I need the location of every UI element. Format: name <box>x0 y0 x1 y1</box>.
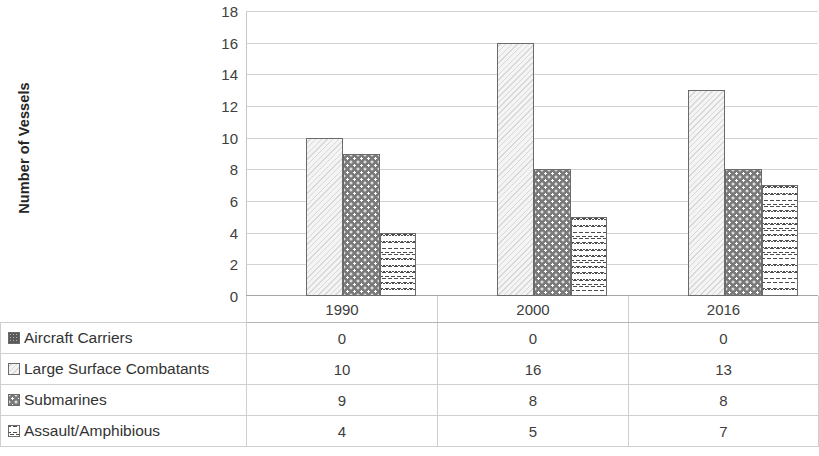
y-tick-2: 2 <box>192 256 238 273</box>
table-row: Assault/Amphibious 4 5 7 <box>1 416 819 447</box>
legend-swatch-assault-amphibious <box>8 425 20 437</box>
legend-swatch-aircraft-carriers <box>8 332 20 344</box>
cell-aircraft-carriers-1990: 0 <box>247 323 438 354</box>
y-tick-4: 4 <box>192 224 238 241</box>
table-row: Aircraft Carriers 0 0 0 <box>1 323 819 354</box>
y-tick-8: 8 <box>192 161 238 178</box>
legend-swatch-submarines <box>8 394 20 406</box>
cell-submarines-1990: 9 <box>247 385 438 416</box>
bar-1990-assault-amphibious <box>380 233 416 296</box>
legend-row-submarines: Submarines <box>1 385 247 416</box>
table-header-2016: 2016 <box>629 296 819 323</box>
bar-1990-large-surface-combatants <box>306 138 343 296</box>
table-row: Large Surface Combatants 10 16 13 <box>1 354 819 385</box>
legend-label-submarines: Submarines <box>24 391 107 408</box>
y-tick-10: 10 <box>192 129 238 146</box>
cell-large-surface-combatants-2016: 13 <box>629 354 819 385</box>
y-axis-tick-labels: 18 16 14 12 10 8 6 4 2 0 <box>186 11 238 296</box>
legend-label-assault-amphibious: Assault/Amphibious <box>24 422 160 439</box>
cell-submarines-2016: 8 <box>629 385 819 416</box>
y-tick-18: 18 <box>192 3 238 20</box>
bar-2016-large-surface-combatants <box>688 90 725 296</box>
bar-2016-submarines <box>725 169 762 296</box>
legend-row-large-surface-combatants: Large Surface Combatants <box>1 354 247 385</box>
bar-2016-assault-amphibious <box>762 185 798 296</box>
bar-2000-large-surface-combatants <box>497 43 534 296</box>
cell-aircraft-carriers-2016: 0 <box>629 323 819 354</box>
table-header-row: 1990 2000 2016 <box>1 296 819 323</box>
y-tick-16: 16 <box>192 34 238 51</box>
table-corner-cell <box>1 296 247 323</box>
cell-assault-amphibious-1990: 4 <box>247 416 438 447</box>
cell-assault-amphibious-2016: 7 <box>629 416 819 447</box>
legend-label-large-surface-combatants: Large Surface Combatants <box>24 360 209 377</box>
legend-swatch-large-surface-combatants <box>8 363 20 375</box>
cell-submarines-2000: 8 <box>438 385 629 416</box>
cell-large-surface-combatants-2000: 16 <box>438 354 629 385</box>
table-header-2000: 2000 <box>438 296 629 323</box>
y-tick-14: 14 <box>192 66 238 83</box>
cell-assault-amphibious-2000: 5 <box>438 416 629 447</box>
legend-label-aircraft-carriers: Aircraft Carriers <box>24 329 133 346</box>
plot-area <box>246 11 818 296</box>
bars-layer <box>246 11 818 296</box>
legend-row-assault-amphibious: Assault/Amphibious <box>1 416 247 447</box>
data-table: 1990 2000 2016 Aircraft Carriers 0 0 0 L… <box>0 296 819 447</box>
legend-row-aircraft-carriers: Aircraft Carriers <box>1 323 247 354</box>
y-tick-12: 12 <box>192 98 238 115</box>
bar-2000-assault-amphibious <box>571 217 607 296</box>
table-row: Submarines 9 8 8 <box>1 385 819 416</box>
y-axis-title: Number of Vessels <box>16 58 32 238</box>
bar-1990-submarines <box>343 154 380 297</box>
cell-large-surface-combatants-1990: 10 <box>247 354 438 385</box>
cell-aircraft-carriers-2000: 0 <box>438 323 629 354</box>
bar-2000-submarines <box>534 169 571 296</box>
y-tick-6: 6 <box>192 193 238 210</box>
table-header-1990: 1990 <box>247 296 438 323</box>
